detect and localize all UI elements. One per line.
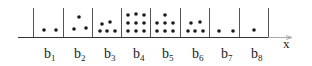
bin-4-dots bbox=[126, 12, 146, 33]
bin-6-dots bbox=[186, 20, 205, 33]
bin-labels: b1 b2 b3 b4 b5 b6 b7 b8 bbox=[44, 46, 263, 63]
bin-label-6: b6 bbox=[192, 46, 204, 63]
histogram-dot-diagram: x bbox=[0, 0, 312, 66]
bin-3-dots bbox=[98, 20, 117, 33]
bin-label-8: b8 bbox=[251, 46, 263, 63]
bin-label-5: b5 bbox=[162, 46, 174, 63]
bin-2-dots bbox=[72, 15, 88, 31]
bin-7-dots bbox=[217, 29, 235, 33]
bin-dots bbox=[42, 12, 256, 33]
bin-label-1: b1 bbox=[44, 46, 56, 63]
bin-label-4: b4 bbox=[133, 46, 145, 63]
bin-8-dots bbox=[252, 28, 256, 32]
bin-label-3: b3 bbox=[104, 46, 116, 63]
x-axis-label: x bbox=[283, 36, 290, 51]
bin-label-7: b7 bbox=[221, 46, 233, 63]
bin-5-dots bbox=[155, 13, 175, 33]
bin-label-2: b2 bbox=[74, 46, 86, 63]
bin-1-dots bbox=[42, 28, 58, 32]
